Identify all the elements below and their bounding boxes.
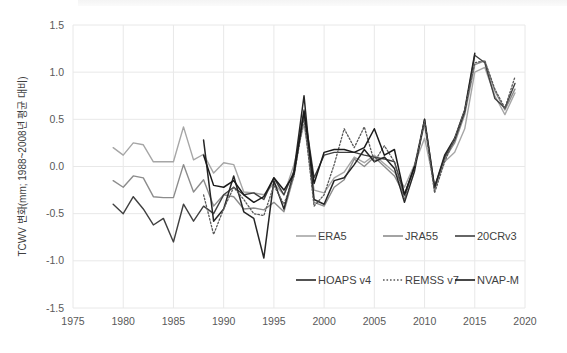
y-tick-label: 1.5 <box>49 19 64 31</box>
x-tick-label: 1985 <box>162 315 186 327</box>
y-tick-label: -1.0 <box>46 254 64 266</box>
x-tick-label: 1975 <box>61 315 85 327</box>
legend-label: HOAPS v4 <box>318 274 371 286</box>
x-tick-label: 1980 <box>112 315 136 327</box>
x-tick-label: 2005 <box>363 315 387 327</box>
x-tick-label: 2010 <box>413 315 437 327</box>
chart-canvas: 1.51.00.50.0-0.5-1.0-1.51975198019851990… <box>0 0 567 353</box>
y-tick-label: -0.5 <box>46 207 64 219</box>
legend-label: REMSS v7 <box>405 274 459 286</box>
x-tick-label: 1990 <box>212 315 236 327</box>
legend-label: NVAP-M <box>477 274 519 286</box>
x-tick-label: 2000 <box>312 315 336 327</box>
legend-label: ERA5 <box>318 230 347 242</box>
legend-label: 20CRv3 <box>477 230 517 242</box>
y-tick-label: 0.5 <box>49 113 64 125</box>
y-tick-label: 0.0 <box>49 160 64 172</box>
y-tick-label: -1.5 <box>46 302 64 314</box>
legend-label: JRA55 <box>405 230 438 242</box>
y-axis-label: TCWV 변화(mm; 1988~2008년 평균 대비) <box>17 77 28 257</box>
x-tick-label: 1995 <box>262 315 286 327</box>
x-tick-label: 2020 <box>513 315 537 327</box>
x-tick-label: 2015 <box>463 315 487 327</box>
y-tick-label: 1.0 <box>49 66 64 78</box>
tcwv-anomaly-chart: 1.51.00.50.0-0.5-1.0-1.51975198019851990… <box>0 0 567 353</box>
